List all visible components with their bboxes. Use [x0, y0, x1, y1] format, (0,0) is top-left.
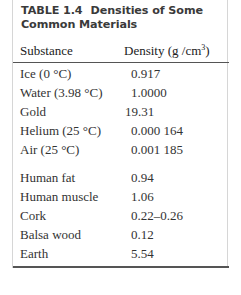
table-row: Air (25 °C) 0.001 185: [0, 142, 241, 161]
density-cell: 0.94: [131, 170, 154, 186]
substance-cell: Human muscle: [20, 189, 98, 205]
table-row: Balsa wood 0.12: [0, 227, 241, 246]
table-row: Helium (25 °C) 0.000 164: [0, 123, 241, 142]
density-cell: 19.31: [125, 104, 154, 120]
density-header-close: ): [205, 43, 209, 58]
density-cell: 0.001 185: [131, 142, 183, 158]
substance-cell: Water (3.98 °C): [20, 85, 103, 101]
density-cell: 0.22–0.26: [131, 208, 183, 224]
table-row: Gold 19.31: [0, 104, 241, 123]
density-cell: 0.12: [131, 227, 154, 243]
density-cell: 1.0000: [131, 85, 167, 101]
header-rule: [13, 62, 229, 63]
bottom-rule: [13, 266, 229, 268]
substance-cell: Cork: [20, 208, 46, 224]
column-header-density: Density (g /cm3): [124, 43, 210, 59]
table-row: Earth 5.54: [0, 246, 241, 265]
column-header-substance: Substance: [20, 43, 73, 59]
density-cell: 5.54: [131, 246, 154, 262]
substance-cell: Air (25 °C): [20, 142, 79, 158]
substance-cell: Gold: [20, 104, 46, 120]
substance-cell: Balsa wood: [20, 227, 81, 243]
density-cell: 0.917: [131, 66, 160, 82]
substance-cell: Ice (0 °C): [20, 66, 71, 82]
table-row: Water (3.98 °C) 1.0000: [0, 85, 241, 104]
table-title-line1: Densities of Some: [91, 4, 203, 17]
table-row: Human fat 0.94: [0, 170, 241, 189]
table-title: TABLE 1.4Densities of Some Common Materi…: [21, 4, 226, 32]
table-title-line2: Common Materials: [21, 18, 137, 31]
density-cell: 1.06: [131, 189, 154, 205]
substance-cell: Human fat: [20, 170, 75, 186]
table-row: Cork 0.22–0.26: [0, 208, 241, 227]
table-row: Human muscle 1.06: [0, 189, 241, 208]
density-header-text: Density (g /cm: [124, 43, 201, 58]
density-cell: 0.000 164: [131, 123, 183, 139]
table-label: TABLE 1.4: [21, 4, 83, 17]
substance-cell: Helium (25 °C): [20, 123, 101, 139]
table-row: Ice (0 °C) 0.917: [0, 66, 241, 85]
substance-cell: Earth: [20, 246, 48, 262]
